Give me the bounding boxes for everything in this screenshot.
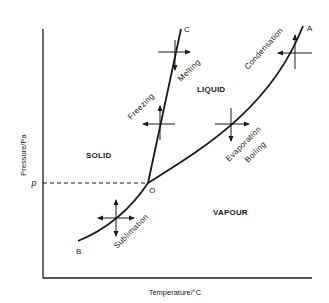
point-o-label: O (149, 186, 155, 195)
axes (43, 29, 312, 278)
melting-label: Melting (176, 57, 202, 83)
condensation-label: Condensation (243, 26, 285, 71)
point-a-label: A (307, 24, 313, 33)
sublimation-curve (78, 183, 148, 241)
point-c-label: C (184, 25, 190, 34)
region-vapour-label: VAPOUR (213, 208, 248, 217)
region-solid-label: SOLID (86, 151, 111, 160)
pressure-marker-label: p (30, 178, 36, 188)
freezing-label: Freezing (126, 91, 156, 121)
x-axis-label: Temperature/°C (149, 288, 202, 297)
phase-boundaries (78, 26, 303, 241)
y-axis-label: Pressure/Pa (19, 134, 28, 176)
region-liquid-label: LIQUID (197, 85, 225, 94)
phase-diagram: Pressure/Pa Temperature/°C p O C A B SOL… (0, 0, 329, 303)
point-b-label: B (76, 247, 81, 256)
